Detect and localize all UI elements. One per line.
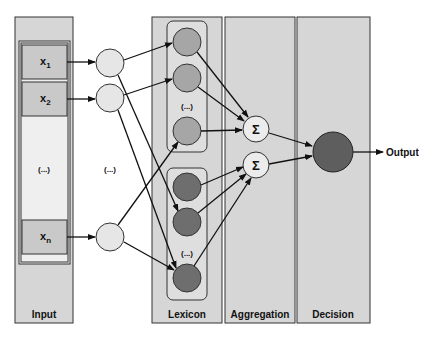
lexicon-node-neg-2 bbox=[173, 208, 201, 236]
sum-node-1: Σ bbox=[243, 116, 269, 142]
input-panel-label: Input bbox=[32, 309, 57, 320]
svg-text:Σ: Σ bbox=[252, 122, 260, 137]
svg-text:Σ: Σ bbox=[252, 158, 260, 173]
aggregation-panel-label: Aggregation bbox=[231, 309, 290, 320]
decision-panel-label: Decision bbox=[312, 309, 354, 320]
input-panel: x1 x2 (...) xn Input bbox=[15, 17, 73, 323]
lexicon-node-pos-n bbox=[173, 117, 201, 145]
lexicon-node-pos-1 bbox=[173, 28, 201, 56]
hidden-node-1 bbox=[96, 49, 124, 77]
sum-node-2: Σ bbox=[243, 152, 269, 178]
lexicon-node-neg-n bbox=[173, 264, 201, 292]
input-ellipsis: (...) bbox=[38, 165, 50, 174]
hidden-ellipsis: (...) bbox=[104, 165, 116, 174]
input-xn-box: xn bbox=[22, 220, 67, 254]
hidden-node-n bbox=[96, 223, 124, 251]
architecture-diagram: x1 x2 (...) xn Input (...) (...) Lexicon… bbox=[0, 0, 431, 345]
lexicon-node-pos-2 bbox=[173, 64, 201, 92]
lexicon-node-neg-1 bbox=[173, 173, 201, 201]
input-x1-box: x1 bbox=[22, 45, 67, 79]
output-label: Output bbox=[386, 147, 419, 158]
decision-node bbox=[313, 132, 353, 172]
lexicon-ellipsis-top: (...) bbox=[181, 102, 193, 111]
hidden-node-2 bbox=[96, 84, 124, 112]
lexicon-ellipsis-bottom: (...) bbox=[181, 249, 193, 258]
input-x2-box: x2 bbox=[22, 82, 67, 116]
lexicon-panel-label: Lexicon bbox=[168, 309, 206, 320]
